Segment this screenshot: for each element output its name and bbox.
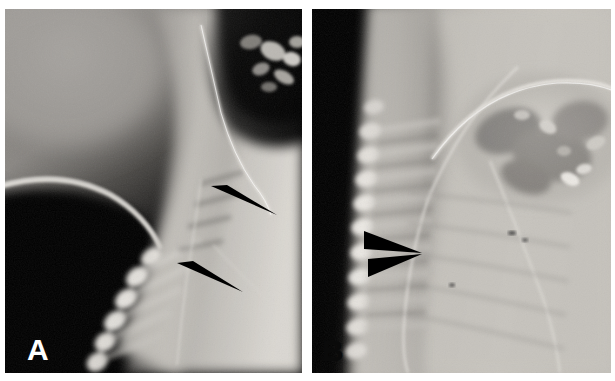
radiograph-panel-b[interactable]: B bbox=[312, 9, 611, 373]
radiograph-figure: A bbox=[0, 0, 615, 381]
radiograph-image-a bbox=[5, 9, 302, 373]
panel-gutter bbox=[302, 0, 312, 381]
radiograph-image-b bbox=[312, 9, 611, 373]
radiograph-panel-a[interactable]: A bbox=[5, 9, 302, 373]
